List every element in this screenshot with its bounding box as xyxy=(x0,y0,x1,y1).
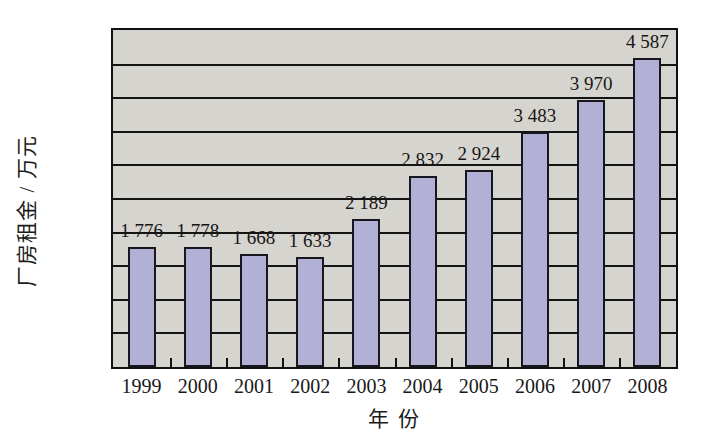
bar-value-label: 2 832 xyxy=(401,149,444,171)
bar-chart: 厂房租金 / 万元 05001 0001 5002 0002 5003 0003… xyxy=(0,0,702,440)
bar-value-label: 2 189 xyxy=(345,192,388,214)
bar[interactable] xyxy=(352,219,380,366)
bar[interactable] xyxy=(409,176,437,366)
bar[interactable] xyxy=(128,247,156,366)
x-axis-tick-label: 2007 xyxy=(571,375,611,398)
bar-slot: 2 189 xyxy=(338,31,394,367)
bar[interactable] xyxy=(521,132,549,366)
bar-slot: 3 483 xyxy=(507,31,563,367)
x-axis-tick-label: 2002 xyxy=(290,375,330,398)
x-axis-tick-label: 2003 xyxy=(346,375,386,398)
x-axis-tick-label: 2008 xyxy=(627,375,667,398)
bar-slot: 4 587 xyxy=(619,31,675,367)
bar-value-label: 1 633 xyxy=(289,230,332,252)
bar-value-label: 4 587 xyxy=(626,31,669,53)
bar-value-label: 3 483 xyxy=(514,105,557,127)
x-axis-title: 年 份 xyxy=(111,402,678,432)
x-axis-tick-label: 2005 xyxy=(459,375,499,398)
bar-value-label: 1 668 xyxy=(233,227,276,249)
bar-slot: 2 832 xyxy=(395,31,451,367)
x-axis-tick-label: 2001 xyxy=(234,375,274,398)
x-axis-tick-label: 2006 xyxy=(515,375,555,398)
x-axis-tick-label: 2000 xyxy=(178,375,218,398)
y-axis-title: 厂房租金 / 万元 xyxy=(10,46,40,376)
bar[interactable] xyxy=(577,100,605,367)
bar-slot: 2 924 xyxy=(451,31,507,367)
x-axis-tick-label: 2004 xyxy=(403,375,443,398)
bar[interactable] xyxy=(184,247,212,366)
bar[interactable] xyxy=(633,58,661,366)
bars-container: 1 7761 7781 6681 6332 1892 8322 9243 483… xyxy=(114,31,676,367)
bar[interactable] xyxy=(240,254,268,366)
bar[interactable] xyxy=(465,170,493,366)
bar-slot: 3 970 xyxy=(563,31,619,367)
x-axis-tick-label: 1999 xyxy=(122,375,162,398)
bar-value-label: 3 970 xyxy=(570,73,613,95)
bar-slot: 1 633 xyxy=(282,31,338,367)
bar-value-label: 2 924 xyxy=(457,143,500,165)
bar[interactable] xyxy=(296,257,324,367)
bar-value-label: 1 776 xyxy=(120,220,163,242)
bar-slot: 1 776 xyxy=(114,31,170,367)
bar-slot: 1 778 xyxy=(170,31,226,367)
bar-slot: 1 668 xyxy=(226,31,282,367)
bar-value-label: 1 778 xyxy=(176,220,219,242)
